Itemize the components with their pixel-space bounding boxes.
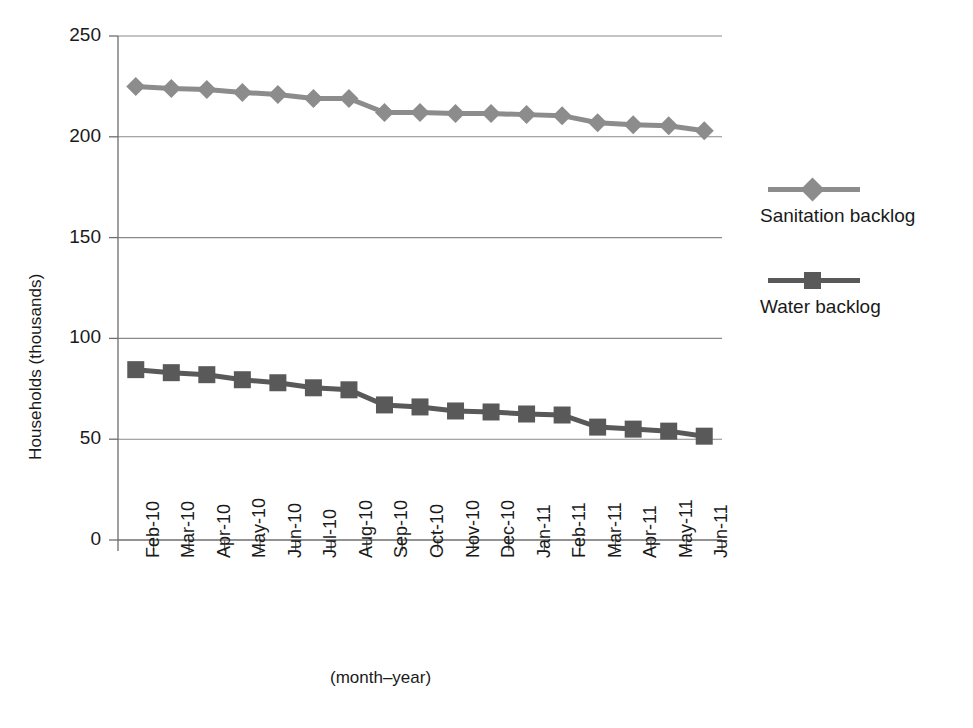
- line-chart-canvas: [0, 0, 973, 728]
- data-point-marker: [625, 421, 642, 438]
- data-point-marker: [163, 364, 180, 381]
- series-layer: [126, 77, 713, 445]
- y-tick-label: 100: [41, 326, 101, 348]
- data-point-marker: [482, 104, 501, 123]
- x-tick-label: Feb-10: [143, 501, 164, 558]
- data-point-marker: [447, 402, 464, 419]
- data-point-marker: [411, 103, 430, 122]
- data-point-marker: [304, 89, 323, 108]
- x-tick-label: Jun-11: [711, 504, 732, 558]
- y-tick-label: 200: [41, 125, 101, 147]
- data-point-marker: [554, 407, 571, 424]
- x-tick-label: May-10: [249, 498, 270, 558]
- data-point-marker: [483, 403, 500, 420]
- data-point-marker: [127, 361, 144, 378]
- x-axis-ticks: [118, 540, 722, 551]
- data-point-marker: [446, 104, 465, 123]
- x-tick-label: Nov-10: [463, 500, 484, 558]
- data-point-marker: [269, 374, 286, 391]
- x-tick-label: Feb-11: [569, 502, 590, 558]
- y-tick-label: 150: [41, 226, 101, 248]
- data-point-marker: [162, 79, 181, 98]
- data-point-marker: [126, 77, 145, 96]
- data-point-marker: [340, 381, 357, 398]
- x-tick-label: Jun-10: [285, 503, 306, 558]
- legend-entry-sanitation[interactable]: Sanitation backlog: [760, 178, 970, 227]
- diamond-marker-icon: [800, 177, 824, 201]
- legend-entry-water[interactable]: Water backlog: [760, 269, 970, 318]
- data-point-marker: [518, 406, 535, 423]
- y-axis-title: Households (thousands): [26, 160, 46, 460]
- data-point-marker: [589, 419, 606, 436]
- x-tick-label: Aug-10: [356, 500, 377, 558]
- y-tick-label: 50: [41, 427, 101, 449]
- x-tick-label: May-11: [676, 499, 697, 558]
- data-point-marker: [517, 105, 536, 124]
- x-tick-label: Jan-11: [534, 504, 555, 558]
- y-tick-label: 0: [41, 528, 101, 550]
- chart-legend: Sanitation backlog Water backlog: [760, 178, 970, 360]
- legend-label-sanitation: Sanitation backlog: [760, 205, 970, 227]
- x-tick-label: Dec-10: [498, 500, 519, 558]
- x-tick-label: Apr-11: [640, 505, 661, 558]
- data-point-marker: [305, 379, 322, 396]
- data-point-marker: [412, 398, 429, 415]
- x-tick-label: Oct-10: [427, 504, 448, 558]
- data-point-marker: [695, 121, 714, 140]
- data-point-marker: [234, 371, 251, 388]
- x-tick-label: Sep-10: [391, 500, 412, 558]
- data-point-marker: [588, 113, 607, 132]
- x-tick-label: Mar-10: [178, 501, 199, 558]
- data-point-marker: [339, 89, 358, 108]
- data-point-marker: [624, 115, 643, 134]
- data-point-marker: [375, 103, 394, 122]
- data-point-marker: [660, 423, 677, 440]
- chart-figure: 050100150200250 Feb-10Mar-10Apr-10May-10…: [0, 0, 973, 728]
- data-point-marker: [197, 80, 216, 99]
- legend-sample-water: [768, 269, 860, 291]
- square-marker-icon: [804, 272, 821, 289]
- x-tick-label: Apr-10: [214, 504, 235, 558]
- x-tick-label: Jul-10: [320, 509, 341, 558]
- x-axis-title: (month–year): [330, 668, 431, 688]
- data-point-marker: [696, 428, 713, 445]
- data-point-marker: [233, 83, 252, 102]
- legend-sample-sanitation: [768, 178, 860, 200]
- data-point-marker: [268, 85, 287, 104]
- y-tick-label: 250: [41, 24, 101, 46]
- data-point-marker: [198, 366, 215, 383]
- legend-label-water: Water backlog: [760, 296, 970, 318]
- data-point-marker: [553, 106, 572, 125]
- data-point-marker: [376, 396, 393, 413]
- x-tick-label: Mar-11: [605, 502, 626, 558]
- data-point-marker: [659, 116, 678, 135]
